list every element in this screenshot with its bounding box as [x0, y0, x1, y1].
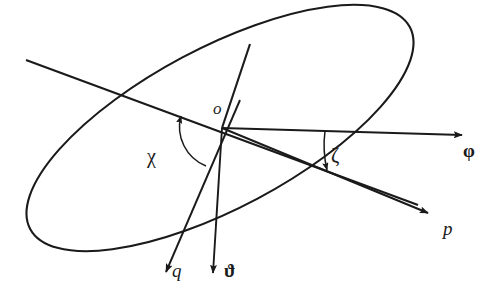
- zeta-angle-arc: [324, 131, 327, 170]
- figure-canvas: o φ p q ϑ χ ζ: [0, 0, 491, 303]
- chi-angle-arc: [180, 116, 206, 166]
- theta-axis: [213, 128, 222, 273]
- phi-axis-label: φ: [463, 141, 475, 160]
- diagram-svg: [0, 0, 491, 303]
- phi-axis: [222, 128, 462, 135]
- zeta-angle-label: ζ: [331, 145, 339, 165]
- origin-label: o: [213, 100, 222, 117]
- chi-angle-label: χ: [147, 146, 156, 166]
- p-axis-label: p: [443, 219, 453, 238]
- theta-axis-label: ϑ: [224, 261, 235, 280]
- ellipse-outline: [0, 0, 447, 300]
- minor-axis-chord: [222, 44, 250, 128]
- q-axis-label: q: [172, 261, 182, 280]
